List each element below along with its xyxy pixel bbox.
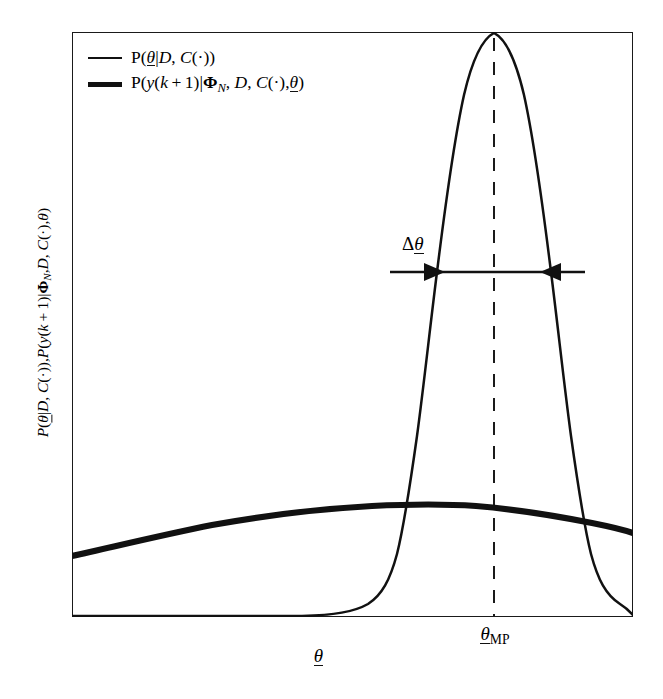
delta-theta-arrow [390,263,585,281]
x-axis-label: θ [0,645,663,667]
x-tick-label-theta-mp: θMP [452,623,538,648]
delta-theta-arrowhead-left [424,263,445,281]
y-axis-label: P(θ|D, C(·)),P(y(k + 1)|ΦN,D, C(·),θ) [34,208,51,437]
predictive-distribution-curve [72,505,633,557]
legend-swatch-thick-line [88,82,122,87]
figure-canvas: P(θ|D, C(·)) P(y(k + 1)|ΦN, D, C(·),θ) Δ… [0,0,663,699]
plot-curves [72,32,633,617]
legend-swatch-thin-line [88,57,122,59]
y-axis-label-container: P(θ|D, C(·)),P(y(k + 1)|ΦN,D, C(·),θ) [34,73,53,573]
legend-entry-parameter-posterior: P(θ|D, C(·)) [88,44,418,71]
legend-label-predictive-distribution: P(y(k + 1)|ΦN, D, C(·),θ) [131,74,304,94]
parameter-posterior-curve [72,33,633,616]
delta-theta-label: Δθ [402,234,424,254]
legend-entry-predictive-distribution: P(y(k + 1)|ΦN, D, C(·),θ) [88,71,418,98]
legend: P(θ|D, C(·)) P(y(k + 1)|ΦN, D, C(·),θ) [88,44,418,98]
x-axis-label-text: θ [314,645,323,666]
legend-label-parameter-posterior: P(θ|D, C(·)) [131,49,215,67]
